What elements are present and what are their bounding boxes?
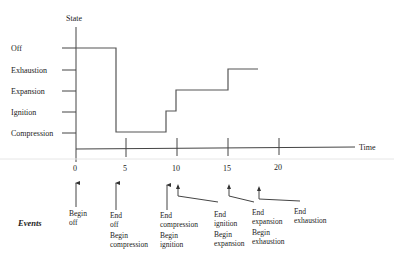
events-label: Events xyxy=(17,218,42,228)
svg-text:End: End xyxy=(160,211,172,220)
svg-text:ignition: ignition xyxy=(214,219,238,228)
svg-text:Begin: Begin xyxy=(110,231,128,240)
svg-text:Begin: Begin xyxy=(252,228,270,237)
svg-text:Begin: Begin xyxy=(69,209,87,218)
x-tick-0: 0 xyxy=(73,164,77,173)
svg-text:off: off xyxy=(69,218,78,227)
svg-text:expansion: expansion xyxy=(214,239,245,248)
svg-text:End: End xyxy=(110,211,122,220)
arrow-icon xyxy=(229,186,254,202)
svg-text:End: End xyxy=(214,210,226,219)
state-label-ignition: Ignition xyxy=(11,108,36,117)
svg-text:compression: compression xyxy=(160,220,198,229)
arrow-icon xyxy=(259,188,300,201)
state-label-off: Off xyxy=(11,44,22,53)
event-end-expansion-begin-exhaustion: End expansion Begin exhaustion xyxy=(252,208,285,246)
state-label-compression: Compression xyxy=(11,129,53,138)
svg-text:ignition: ignition xyxy=(160,240,184,249)
svg-text:exhaustion: exhaustion xyxy=(294,216,327,225)
arrow-icon xyxy=(178,186,218,202)
x-tick-10: 10 xyxy=(172,164,180,173)
svg-text:Begin: Begin xyxy=(214,230,232,239)
event-arrows xyxy=(76,183,300,210)
state-label-expansion: Expansion xyxy=(11,87,45,96)
state-ticks xyxy=(62,48,76,133)
svg-text:expansion: expansion xyxy=(252,217,283,226)
event-end-exhaustion: End exhaustion xyxy=(294,207,327,225)
event-end-compression-begin-ignition: End compression Begin ignition xyxy=(160,211,198,249)
svg-text:compression: compression xyxy=(110,240,148,249)
diagram-canvas: State Off Exhaustion Expansion Ignition … xyxy=(0,0,394,260)
x-tick-20: 20 xyxy=(274,163,282,172)
state-timeline-diagram: State Off Exhaustion Expansion Ignition … xyxy=(0,0,394,260)
x-tick-5: 5 xyxy=(123,164,127,173)
svg-text:off: off xyxy=(110,220,119,229)
state-label-exhaustion: Exhaustion xyxy=(11,66,47,75)
event-end-off-begin-compression: End off Begin compression xyxy=(110,211,148,249)
svg-text:End: End xyxy=(252,208,264,217)
svg-text:exhaustion: exhaustion xyxy=(252,237,285,246)
event-begin-off: Begin off xyxy=(69,209,87,227)
event-end-ignition-begin-expansion: End ignition Begin expansion xyxy=(214,210,245,248)
state-trajectory xyxy=(76,48,258,132)
svg-text:End: End xyxy=(294,207,306,216)
x-axis-label: Time xyxy=(359,143,376,152)
y-axis-label: State xyxy=(66,14,82,23)
x-tick-15: 15 xyxy=(223,164,231,173)
time-axis xyxy=(76,147,355,149)
svg-text:Begin: Begin xyxy=(160,231,178,240)
